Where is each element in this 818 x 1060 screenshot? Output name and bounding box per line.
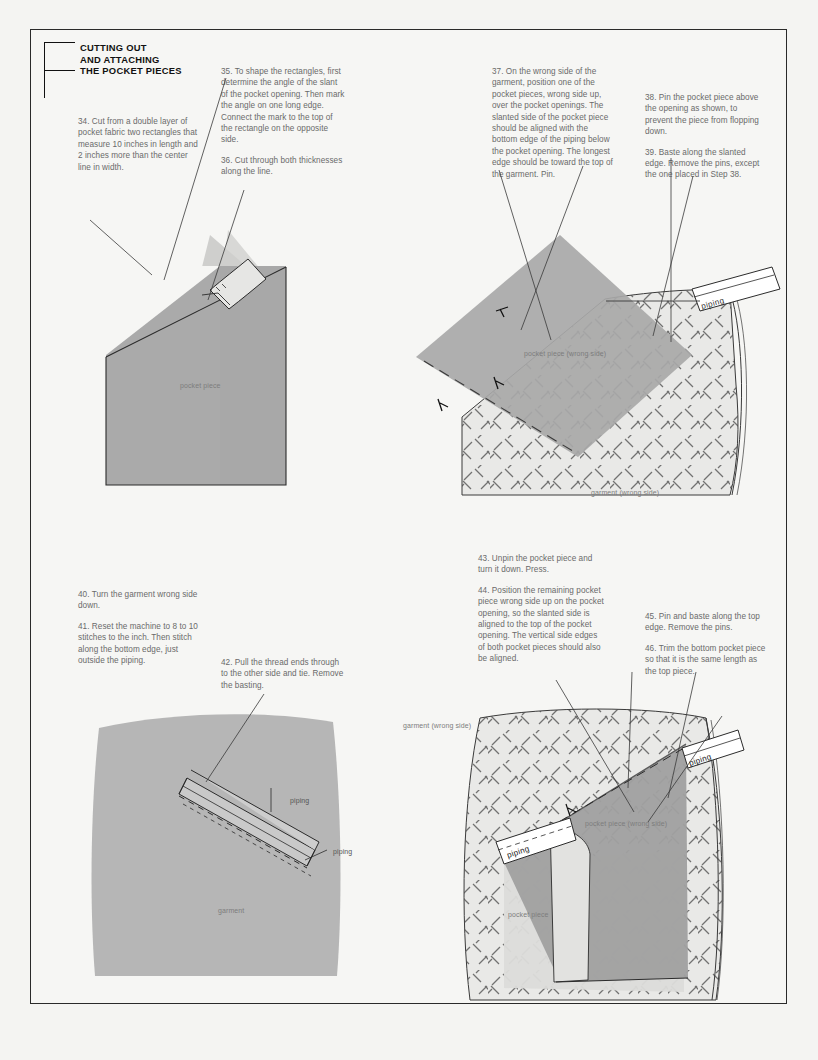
figure4-leader-lines	[470, 672, 750, 832]
leader-step-43	[628, 672, 632, 788]
step-45-46-text: 45. Pin and baste along the top edge. Re…	[645, 611, 769, 677]
step-38-paragraph: 38. Pin the pocket piece above the openi…	[645, 92, 767, 138]
leader-step-35	[164, 78, 226, 280]
step-43-paragraph: 43. Unpin the pocket piece and turn it d…	[478, 553, 604, 576]
figure2-label-garment-wrong-side: garment (wrong side)	[591, 489, 659, 496]
figure4-label-pocket-piece: pocket piece	[508, 911, 549, 918]
figure2-leader-lines	[455, 150, 735, 370]
leader-step-46	[648, 716, 722, 822]
step-41-paragraph: 41. Reset the machine to 8 to 10 stitche…	[78, 621, 200, 667]
step-43-44-text: 43. Unpin the pocket piece and turn it d…	[478, 553, 604, 665]
step-42-text: 42. Pull the thread ends through to the …	[221, 657, 345, 691]
leader-step-41	[206, 694, 264, 782]
leader-step-45	[668, 672, 696, 798]
step-45-paragraph: 45. Pin and baste along the top edge. Re…	[645, 611, 769, 634]
page-title-line-1: CUTTING OUT	[80, 42, 250, 54]
step-44-paragraph: 44. Position the remaining pocket piece …	[478, 585, 604, 665]
step-42-paragraph: 42. Pull the thread ends through to the …	[221, 657, 345, 691]
leader-step-37	[499, 170, 551, 340]
figure1-leader-lines	[60, 60, 390, 350]
leader-step-36	[208, 190, 244, 300]
figure3-label-piping-bottom: piping	[333, 848, 352, 855]
figure3-label-garment: garment	[218, 907, 244, 914]
leader-step-44	[556, 680, 634, 812]
figure1-label-pocket-piece: pocket piece	[180, 382, 221, 389]
page-canvas: CUTTING OUT AND ATTACHING THE POCKET PIE…	[0, 0, 818, 1060]
leader-step-37b	[521, 166, 583, 330]
figure3-leader-lines	[140, 690, 310, 810]
leader-step-34	[90, 220, 152, 275]
step-40-paragraph: 40. Turn the garment wrong side down.	[78, 589, 200, 612]
leader-step-39	[653, 176, 693, 336]
figure4-label-garment-wrong-side: garment (wrong side)	[403, 722, 471, 729]
step-40-41-text: 40. Turn the garment wrong side down. 41…	[78, 589, 200, 666]
